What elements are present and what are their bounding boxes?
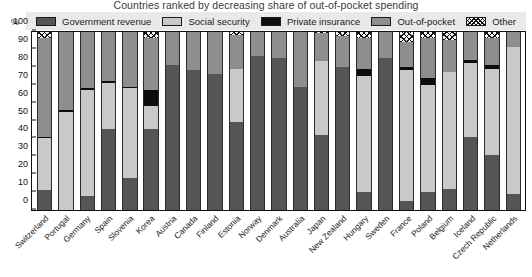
- bar-segment: [379, 58, 392, 210]
- legend-item-gov[interactable]: Government revenue: [36, 16, 151, 27]
- stacked-bar[interactable]: [506, 31, 521, 210]
- bar-segment: [464, 63, 477, 136]
- bar-segment: [123, 88, 136, 178]
- bar-slot[interactable]: [396, 31, 417, 210]
- bar-segment: [187, 31, 200, 70]
- stacked-bar[interactable]: [484, 31, 499, 210]
- bar-slot[interactable]: [34, 31, 55, 210]
- bar-segment: [144, 31, 157, 38]
- bar-slot[interactable]: [204, 31, 225, 210]
- bar-segment: [81, 90, 94, 196]
- bar-slot[interactable]: [311, 31, 332, 210]
- x-label-slot: Norway: [246, 213, 267, 275]
- bar-segment: [208, 31, 221, 74]
- stacked-bar[interactable]: [335, 31, 350, 210]
- x-axis-labels: SwitzerlandPortugalGermanySpainSloveniaK…: [31, 213, 526, 275]
- legend-item-oop[interactable]: Out-of-pocket: [371, 16, 455, 27]
- legend-label: Out-of-pocket: [397, 16, 455, 27]
- legend-item-priv[interactable]: Private insurance: [261, 16, 360, 27]
- bar-slot[interactable]: [417, 31, 438, 210]
- stacked-bar[interactable]: [293, 31, 308, 210]
- bar-segment: [59, 31, 72, 110]
- stacked-bar[interactable]: [207, 31, 222, 210]
- stacked-bar[interactable]: [463, 31, 478, 210]
- bar-slot[interactable]: [503, 31, 524, 210]
- bar-segment: [507, 47, 520, 194]
- x-label-slot: Switzerland: [33, 213, 54, 275]
- stacked-bar[interactable]: [58, 31, 73, 210]
- x-label-slot: Portugal: [54, 213, 75, 275]
- x-label-slot: Spain: [97, 213, 118, 275]
- bar-segment: [400, 201, 413, 210]
- stacked-bar[interactable]: [356, 31, 371, 210]
- bar-slot[interactable]: [247, 31, 268, 210]
- bar-slot[interactable]: [268, 31, 289, 210]
- stacked-bar[interactable]: [399, 31, 414, 210]
- bar-slot[interactable]: [332, 31, 353, 210]
- bar-slot[interactable]: [140, 31, 161, 210]
- legend-label: Other: [492, 16, 516, 27]
- stacked-bar[interactable]: [186, 31, 201, 210]
- chart-container: Countries ranked by decreasing share of …: [0, 0, 532, 277]
- stacked-bar[interactable]: [250, 31, 265, 210]
- stacked-bar[interactable]: [420, 31, 435, 210]
- bar-segment: [485, 69, 498, 155]
- stacked-bar[interactable]: [442, 31, 457, 210]
- bar-segment: [144, 106, 157, 129]
- bar-segment: [81, 31, 94, 88]
- bar-slot[interactable]: [353, 31, 374, 210]
- stacked-bar[interactable]: [271, 31, 286, 210]
- stacked-bar[interactable]: [101, 31, 116, 210]
- chart-title: Countries ranked by decreasing share of …: [0, 0, 532, 11]
- legend-label: Government revenue: [62, 16, 151, 27]
- x-label-slot: Australia: [289, 213, 310, 275]
- bar-slot[interactable]: [481, 31, 502, 210]
- bar-segment: [421, 85, 434, 192]
- bar-slot[interactable]: [55, 31, 76, 210]
- stacked-bar[interactable]: [229, 31, 244, 210]
- bar-segment: [400, 31, 413, 42]
- bar-slot[interactable]: [162, 31, 183, 210]
- bar-segment: [59, 112, 72, 210]
- bar-slot[interactable]: [119, 31, 140, 210]
- stacked-bar[interactable]: [122, 31, 137, 210]
- bar-slot[interactable]: [98, 31, 119, 210]
- bar-segment: [336, 67, 349, 210]
- stacked-bar[interactable]: [314, 31, 329, 210]
- bar-slot[interactable]: [375, 31, 396, 210]
- bar-slot[interactable]: [77, 31, 98, 210]
- bar-segment: [230, 69, 243, 123]
- chart-legend: Government revenueSocial securityPrivate…: [26, 12, 526, 30]
- legend-item-soc[interactable]: Social security: [162, 16, 249, 27]
- bar-segment: [123, 178, 136, 210]
- stacked-bar[interactable]: [80, 31, 95, 210]
- bar-segment: [443, 31, 456, 40]
- bar-segment: [102, 129, 115, 210]
- legend-swatch-priv-icon: [261, 17, 281, 26]
- bar-slot[interactable]: [226, 31, 247, 210]
- bar-slot[interactable]: [183, 31, 204, 210]
- stacked-bar[interactable]: [143, 31, 158, 210]
- legend-item-other[interactable]: Other: [466, 16, 516, 27]
- bar-segment: [421, 192, 434, 210]
- bar-slot[interactable]: [290, 31, 311, 210]
- bar-segment: [102, 31, 115, 81]
- x-label-slot: Canada: [182, 213, 203, 275]
- bar-segment: [485, 31, 498, 38]
- bar-segment: [443, 72, 456, 188]
- legend-label: Social security: [188, 16, 249, 27]
- stacked-bar[interactable]: [37, 31, 52, 210]
- bar-slot[interactable]: [460, 31, 481, 210]
- stacked-bar[interactable]: [378, 31, 393, 210]
- bar-segment: [38, 190, 51, 210]
- bar-segment: [357, 38, 370, 68]
- legend-swatch-oop-icon: [371, 17, 391, 26]
- bar-slot[interactable]: [439, 31, 460, 210]
- bar-segment: [357, 76, 370, 192]
- stacked-bar[interactable]: [165, 31, 180, 210]
- y-axis-tick-label: 60: [18, 88, 32, 98]
- x-label-slot: Denmark: [268, 213, 289, 275]
- bar-group: [32, 31, 526, 210]
- bar-segment: [38, 38, 51, 136]
- bar-segment: [144, 129, 157, 210]
